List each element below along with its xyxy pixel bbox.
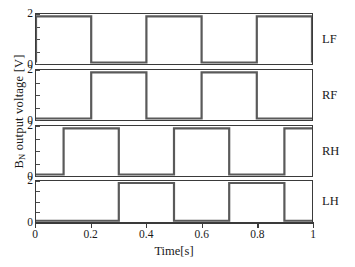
waveform-lh (36, 181, 312, 222)
y-tick-label-top-lh: 2 (27, 175, 33, 187)
x-tick-labels: 00.20.40.60.81 (0, 228, 355, 244)
x-tick-label: 0.6 (195, 228, 209, 240)
y-axis-label: BN output voltage [V] (12, 17, 27, 207)
waveform-rf (36, 70, 312, 120)
x-tick-label: 0.8 (250, 228, 264, 240)
panel-lf: 2 0 (35, 13, 313, 65)
panel-rh: 2 0 (35, 125, 313, 177)
y-axis-label-subscript: N (17, 154, 27, 160)
y-minor-tick (36, 64, 40, 65)
panel-lh: 2 0 (35, 180, 313, 223)
x-tick-label: 0.4 (139, 228, 153, 240)
y-tick-label-bottom-lh: 0 (27, 217, 33, 229)
y-axis-label-rest: output voltage [V] (12, 54, 26, 153)
plot-area-lf (36, 14, 312, 64)
plot-area-rh (36, 126, 312, 176)
series-label-rf: RF (322, 88, 337, 103)
series-label-lh: LH (322, 194, 339, 209)
plot-area-lh (36, 181, 312, 222)
panel-rf: 2 0 (35, 69, 313, 121)
y-tick-label-top-rh: 2 (27, 120, 33, 132)
x-tick-label: 1 (310, 228, 316, 240)
series-label-lf: LF (322, 32, 337, 47)
plot-area-rf (36, 70, 312, 120)
waveform-rh (36, 126, 312, 176)
figure: BN output voltage [V] 2 0 LF 2 0 RF 2 0 (0, 0, 355, 267)
series-label-rh: RH (322, 144, 339, 159)
x-axis-label: Time[s] (35, 244, 313, 259)
y-minor-tick (36, 120, 40, 121)
waveform-lf (36, 14, 312, 64)
x-tick-label: 0 (32, 228, 38, 240)
y-tick-label-top-lf: 2 (27, 8, 33, 20)
y-minor-tick (36, 176, 40, 177)
y-tick-label-top-rf: 2 (27, 64, 33, 76)
y-axis-label-base: B (12, 160, 26, 169)
x-tick-label: 0.2 (83, 228, 97, 240)
